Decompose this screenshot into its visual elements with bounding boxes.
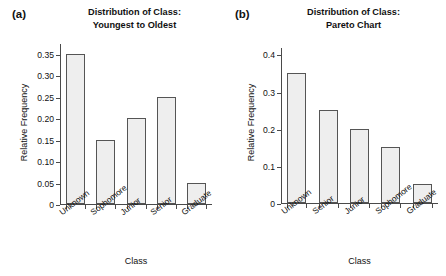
panel-a-xtick-mark [176,205,177,209]
panel-a-y-axis-title: Relative Frequency [20,73,29,173]
panel-b-ytick-label: 0.3 [263,88,275,97]
panel-b-xtick-mark [369,204,370,208]
panel-a-xtick-mark [206,205,207,209]
panel-b-title-line1: Distribution of Class: [307,7,400,17]
figure-two-panel-bar-charts: (a) Distribution of Class: Youngest to O… [0,0,446,276]
panel-a-ytick-label: 0.30 [37,72,54,81]
panel-b-ytick-label: 0 [270,200,275,209]
panel-a-xtick-mark [146,205,147,209]
bar-unknown [287,73,306,203]
panel-b-ytick-mark [277,167,281,168]
panel-a-x-axis-title: Class [60,257,212,266]
panel-b-tag: (b) [235,8,250,20]
bar-junior [350,129,369,203]
panel-b-title: Distribution of Class: Pareto Chart [271,6,436,31]
panel-b-ytick-mark [277,55,281,56]
panel-a-plot-area: 00.050.100.150.200.250.300.35UnknownSoph… [60,44,212,205]
panel-a-ytick-label: 0.05 [37,179,54,188]
panel-a-y-axis-line [60,44,61,205]
panel-b-y-axis-title: Relative Frequency [247,73,256,173]
panel-a-ytick-label: 0 [49,201,54,210]
panel-a-xtick-mark [115,205,116,209]
panel-a-ytick-label: 0.35 [37,50,54,59]
panel-a-title-line1: Distribution of Class: [88,7,181,17]
panel-b-xtick-mark [432,204,433,208]
panel-a-ytick-mark [56,119,60,120]
panel-a-ytick-mark [56,184,60,185]
x-axis-label-junior: Junior [343,195,366,216]
panel-a-ytick-mark [56,55,60,56]
panel-a-ytick-label: 0.25 [37,93,54,102]
panel-a-ytick-label: 0.15 [37,136,54,145]
x-axis-label-senior: Senior [149,195,173,217]
panel-b-xtick-mark [400,204,401,208]
panel-a-ytick-label: 0.10 [37,158,54,167]
panel-b-ytick-mark [277,204,281,205]
x-axis-label-junior: Junior [119,196,142,217]
panel-b-ytick-mark [277,130,281,131]
bar-senior [157,97,176,204]
panel-a-tag: (a) [12,8,26,20]
panel-a-ytick-mark [56,141,60,142]
bar-senior [319,110,338,203]
panel-a-xtick-mark [85,205,86,209]
panel-a-title: Distribution of Class: Youngest to Oldes… [52,6,217,31]
bar-unknown [66,54,85,204]
panel-b-ytick-label: 0.2 [263,125,275,134]
panel-b-ytick-label: 0.4 [263,51,275,60]
panel-a: (a) Distribution of Class: Youngest to O… [0,0,223,276]
panel-a-ytick-mark [56,76,60,77]
panel-b-ytick-label: 0.1 [263,163,275,172]
panel-a-ytick-mark [56,162,60,163]
panel-b: (b) Distribution of Class: Pareto Chart … [223,0,446,276]
panel-a-ytick-mark [56,205,60,206]
panel-b-xtick-mark [338,204,339,208]
panel-b-y-axis-line [281,48,282,204]
panel-a-title-line2: Youngest to Oldest [93,20,177,30]
panel-b-x-axis-title: Class [281,257,438,266]
panel-b-title-line2: Pareto Chart [326,20,381,30]
panel-a-ytick-mark [56,98,60,99]
x-axis-label-senior: Senior [311,194,335,216]
bar-junior [127,118,146,204]
panel-b-ytick-mark [277,93,281,94]
panel-b-plot-area: 00.10.20.30.4UnknownSeniorJuniorSophomor… [281,48,438,204]
panel-b-xtick-mark [306,204,307,208]
panel-a-ytick-label: 0.20 [37,115,54,124]
